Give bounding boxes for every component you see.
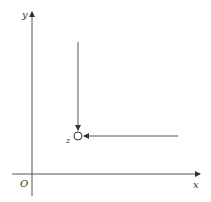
point-z-marker [74, 132, 82, 140]
x-axis-label: x [193, 179, 199, 190]
point-z-label: z [65, 136, 71, 145]
y-axis-label: y [21, 9, 28, 20]
origin-label: O [20, 178, 28, 189]
complex-plane-diagram: y x O z [0, 0, 211, 202]
